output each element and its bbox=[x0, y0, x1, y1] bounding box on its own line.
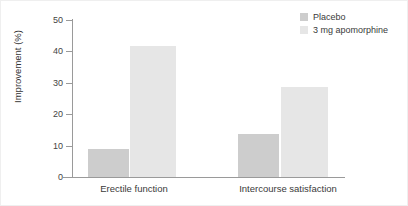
y-tick-mark-50 bbox=[66, 20, 72, 21]
legend: Placebo 3 mg apomorphine bbox=[300, 12, 388, 38]
y-tick-mark-20 bbox=[66, 114, 72, 115]
legend-label-placebo: Placebo bbox=[313, 13, 346, 22]
x-axis-line bbox=[63, 177, 345, 178]
y-tick-label-0: 0 bbox=[41, 173, 63, 182]
y-axis-title: Improvement (%) bbox=[12, 7, 23, 127]
y-tick-label-20: 20 bbox=[41, 110, 63, 119]
legend-item-apomorphine: 3 mg apomorphine bbox=[300, 25, 388, 35]
y-tick-mark-30 bbox=[66, 83, 72, 84]
y-tick-label-30: 30 bbox=[41, 79, 63, 88]
y-tick-mark-10 bbox=[66, 146, 72, 147]
x-axis-category-label-1: Intercourse satisfaction bbox=[223, 184, 353, 194]
bar-chart-figure: Improvement (%) 50 40 30 20 10 0 Erectil… bbox=[0, 0, 408, 206]
bar-placebo-intercourse-satisfaction bbox=[238, 134, 279, 177]
y-tick-mark-0 bbox=[66, 177, 72, 178]
legend-swatch-placebo bbox=[300, 13, 308, 21]
y-tick-label-40: 40 bbox=[41, 47, 63, 56]
bar-apomorphine-erectile-function bbox=[130, 46, 176, 177]
y-tick-label-10: 10 bbox=[41, 142, 63, 151]
y-tick-label-50: 50 bbox=[41, 16, 63, 25]
legend-item-placebo: Placebo bbox=[300, 12, 388, 22]
bar-placebo-erectile-function bbox=[88, 149, 129, 177]
y-tick-mark-40 bbox=[66, 51, 72, 52]
legend-label-apomorphine: 3 mg apomorphine bbox=[313, 26, 388, 35]
bar-apomorphine-intercourse-satisfaction bbox=[281, 87, 328, 177]
plot-area bbox=[73, 20, 343, 177]
legend-swatch-apomorphine bbox=[300, 26, 308, 34]
x-axis-category-label-0: Erectile function bbox=[89, 184, 179, 194]
